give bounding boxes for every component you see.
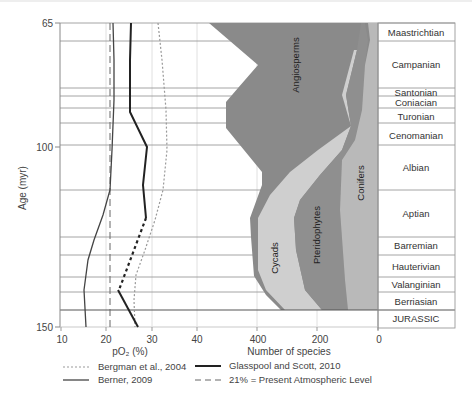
legend-label-bergman: Bergman et al., 2004	[98, 361, 186, 372]
y-tick-150: 150	[36, 322, 53, 333]
po2-series	[84, 23, 167, 327]
glasspool-scott-2010-dotted-segment	[119, 218, 146, 290]
legend-label-pal: 21% = Present Atmospheric Level	[229, 374, 372, 385]
stage-campanian: Campanian	[392, 59, 441, 70]
x-axis-title-species: Number of species	[247, 346, 330, 357]
x-ticks-species	[257, 327, 378, 331]
x-axis-title-po2: pO₂ (%)	[112, 346, 148, 357]
x-tick-400: 400	[250, 334, 267, 345]
stage-aptian: Aptian	[403, 208, 430, 219]
stage-turonian: Turonian	[397, 111, 434, 122]
x-tick-40: 40	[191, 334, 203, 345]
y-tick-100: 100	[36, 142, 53, 153]
bergman-2004-line	[134, 23, 167, 327]
x-tick-200: 200	[312, 334, 329, 345]
legend: Bergman et al., 2004 Glasspool and Scott…	[63, 360, 372, 385]
stage-hauterivian: Hauterivian	[392, 261, 440, 272]
stage-cenomanian: Cenomanian	[389, 130, 443, 141]
y-ticks	[55, 23, 60, 327]
legend-label-berner: Berner, 2009	[98, 374, 152, 385]
stage-barremian: Barremian	[394, 240, 438, 251]
stage-jurassic: JURASSIC	[393, 313, 440, 324]
cycads-label: Cycads	[269, 242, 280, 274]
stage-berriasian: Berriasian	[395, 296, 438, 307]
y-tick-65: 65	[42, 18, 54, 29]
stage-coniacian: Coniacian	[395, 97, 437, 108]
stage-labels: Maastrichtian Campanian Santonian Coniac…	[388, 27, 445, 324]
stage-maastrichtian: Maastrichtian	[388, 27, 445, 38]
x-ticks-po2	[61, 327, 197, 331]
x-tick-10: 10	[56, 334, 68, 345]
glasspool-scott-2010-lower-line	[118, 290, 138, 327]
x-tick-20: 20	[100, 334, 112, 345]
y-axis-title: Age (myr)	[17, 166, 28, 210]
legend-label-glasspool: Glasspool and Scott, 2010	[229, 360, 340, 371]
stage-albian: Albian	[403, 162, 429, 173]
x-tick-0: 0	[376, 334, 382, 345]
stage-valanginian: Valanginian	[392, 279, 441, 290]
glasspool-scott-2010-line	[130, 23, 147, 218]
x-tick-30: 30	[146, 334, 158, 345]
angiosperms-label: Angiosperms	[290, 37, 301, 93]
conifers-label: Conifers	[355, 165, 366, 201]
chart: 65 100 150 Age (myr) 10 20 30 40 pO₂ (%)…	[0, 0, 472, 401]
pteridophytes-label: Pteridophytes	[311, 206, 322, 264]
